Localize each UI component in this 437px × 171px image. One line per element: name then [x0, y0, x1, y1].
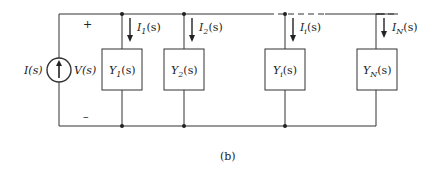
admittance-label-N: YN(s) — [363, 64, 392, 79]
admittance-label-2: Y2(s) — [171, 64, 198, 79]
arrow-down-icon — [290, 35, 296, 42]
branch-current-N: IN(s) — [391, 21, 418, 36]
source-arrow-icon — [56, 60, 62, 66]
admittance-label-1: Y1(s) — [109, 64, 136, 79]
branch-current-1: I1(s) — [136, 21, 161, 36]
parallel-admittance-circuit: + – I(s) V(s) I1(s) I2(s) Ii(s) IN(s) Y1… — [0, 0, 437, 171]
minus-sign: – — [83, 110, 89, 123]
voltage-label: V(s) — [74, 64, 96, 77]
branch-current-i: Ii(s) — [299, 21, 321, 36]
plus-sign: + — [83, 18, 92, 31]
branch-current-2: I2(s) — [198, 21, 223, 36]
arrow-down-icon — [189, 35, 195, 42]
admittance-label-i: Yi(s) — [273, 64, 297, 79]
figure-caption: (b) — [220, 150, 236, 163]
arrow-down-icon — [127, 35, 133, 42]
arrow-down-icon — [381, 31, 387, 38]
source-current-label: I(s) — [23, 64, 43, 77]
